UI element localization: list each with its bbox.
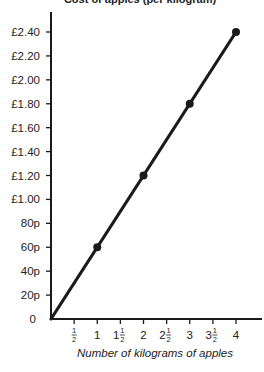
data-point-marker — [140, 172, 148, 180]
x-tick-label: 12 — [72, 326, 77, 344]
x-tick-whole: 4 — [233, 329, 240, 341]
x-tick-whole: 2 — [159, 329, 165, 341]
y-tick-label: £1.20 — [11, 170, 40, 182]
x-tick-label: 3 — [187, 329, 193, 341]
x-tick-label: 4 — [233, 329, 240, 341]
y-tick-label: 20p — [21, 289, 40, 301]
y-axis-ticks: 020p40p60p80p£1.00£1.20£1.40£1.60£1.80£2… — [11, 26, 51, 325]
y-tick-label: £1.60 — [11, 122, 40, 134]
y-tick-label: 0 — [30, 313, 36, 325]
line-chart: Cost of apples (per kilogram) 020p40p60p… — [0, 0, 264, 372]
x-tick-label: 112 — [113, 326, 125, 344]
y-tick-label: £2.40 — [11, 26, 40, 38]
data-point-marker — [93, 243, 101, 251]
y-tick-label: £2.20 — [11, 50, 40, 62]
fraction-denominator: 2 — [120, 335, 124, 344]
fraction-numerator: 1 — [167, 326, 171, 335]
data-point-marker — [232, 28, 240, 36]
x-tick-label: 212 — [159, 326, 171, 344]
y-tick-label: 40p — [21, 265, 40, 277]
x-tick-label: 1 — [94, 329, 100, 341]
x-tick-whole: 1 — [94, 329, 100, 341]
x-axis-ticks: 121112221233124 — [72, 319, 240, 344]
fraction-denominator: 2 — [72, 335, 76, 344]
x-tick-whole: 1 — [113, 329, 119, 341]
x-tick-label: 312 — [205, 326, 217, 344]
y-tick-label: £1.40 — [11, 146, 40, 158]
fraction-numerator: 1 — [120, 326, 124, 335]
fraction-numerator: 1 — [72, 326, 76, 335]
x-tick-whole: 2 — [140, 329, 146, 341]
fraction-denominator: 2 — [213, 335, 217, 344]
chart-title: Cost of apples (per kilogram) — [64, 0, 217, 5]
y-tick-label: 80p — [21, 217, 40, 229]
y-tick-label: £1.80 — [11, 98, 40, 110]
y-tick-label: £1.00 — [11, 193, 40, 205]
y-tick-label: £2.00 — [11, 74, 40, 86]
data-point-marker — [186, 100, 194, 108]
x-tick-whole: 3 — [187, 329, 193, 341]
x-tick-whole: 3 — [205, 329, 211, 341]
x-axis-title: Number of kilograms of apples — [77, 347, 233, 359]
fraction-numerator: 1 — [213, 326, 217, 335]
x-tick-label: 2 — [140, 329, 146, 341]
fraction-denominator: 2 — [167, 335, 171, 344]
y-tick-label: 60p — [21, 241, 40, 253]
data-series — [51, 28, 240, 319]
